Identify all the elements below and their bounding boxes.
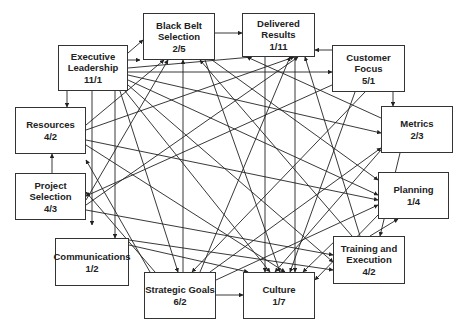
node-score: 2/3 xyxy=(410,130,423,141)
node-planning[interactable]: Planning 1/4 xyxy=(378,172,449,219)
interrelationship-diagram: Black Belt Selection 2/5 Executive Leade… xyxy=(0,0,464,329)
node-customer[interactable]: Customer Focus 5/1 xyxy=(332,45,405,92)
node-strategic[interactable]: Strategic Goals 6/2 xyxy=(144,272,216,319)
edge-exec_lead-to-black_belt xyxy=(128,40,143,53)
node-label-line1: Delivered xyxy=(257,18,300,29)
node-exec_lead[interactable]: Executive Leadership 11/1 xyxy=(58,45,128,91)
node-label-line1: Black Belt xyxy=(156,20,202,31)
node-label-line2: Focus xyxy=(355,63,383,74)
edge-training-to-planning xyxy=(370,219,398,236)
node-resources[interactable]: Resources 4/2 xyxy=(15,107,86,154)
node-delivered[interactable]: Delivered Results 1/11 xyxy=(242,13,315,57)
node-label-line1: Executive xyxy=(71,51,115,62)
node-score: 1/2 xyxy=(85,263,98,274)
node-training[interactable]: Training and Execution 4/2 xyxy=(333,236,405,284)
node-score: 1/4 xyxy=(407,196,420,207)
edge-exec_lead-to-training xyxy=(128,85,333,262)
node-black_belt[interactable]: Black Belt Selection 2/5 xyxy=(143,13,215,60)
edge-black_belt-to-culture xyxy=(205,60,280,272)
node-score: 4/3 xyxy=(44,203,57,214)
node-label-line1: Metrics xyxy=(400,118,433,129)
node-label-line2: Leadership xyxy=(68,62,119,73)
node-score: 2/5 xyxy=(172,43,185,54)
node-culture[interactable]: Culture 1/7 xyxy=(243,272,315,319)
node-label-line1: Planning xyxy=(393,184,433,195)
node-project_sel[interactable]: Project Selection 4/3 xyxy=(15,173,86,220)
node-label-line2: Selection xyxy=(29,191,71,202)
node-label-line1: Customer xyxy=(346,52,390,63)
node-score: 11/1 xyxy=(84,74,102,85)
edge-communications-to-training xyxy=(129,240,333,270)
node-label-line1: Project xyxy=(34,180,66,191)
node-label-line1: Culture xyxy=(262,284,295,295)
node-label-line1: Strategic Goals xyxy=(145,284,215,295)
node-metrics[interactable]: Metrics 2/3 xyxy=(381,106,453,153)
node-score: 6/2 xyxy=(173,296,186,307)
node-label-line1: Communications xyxy=(53,251,130,262)
node-label-line2: Results xyxy=(261,29,295,40)
edge-strategic-to-delivered xyxy=(200,57,290,272)
node-label-line2: Selection xyxy=(158,31,200,42)
node-label-line1: Training and xyxy=(341,243,397,254)
node-score: 5/1 xyxy=(362,75,375,86)
node-score: 1/7 xyxy=(272,296,285,307)
node-score: 4/2 xyxy=(44,131,57,142)
node-communications[interactable]: Communications 1/2 xyxy=(55,238,129,286)
node-label-line2: Execution xyxy=(346,254,391,265)
node-score: 4/2 xyxy=(362,266,375,277)
node-score: 1/11 xyxy=(270,41,288,52)
node-label-line1: Resources xyxy=(26,119,75,130)
